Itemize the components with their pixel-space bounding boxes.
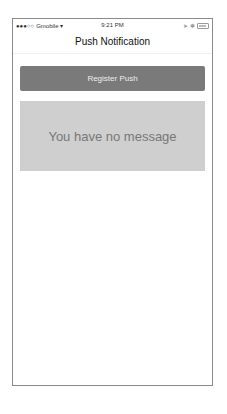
battery-icon	[197, 23, 209, 29]
status-bar: ●●●○○ Gmobile ▾ 9:21 PM ➤ ✱	[13, 19, 212, 31]
message-text: You have no message	[48, 129, 176, 144]
nav-divider	[13, 53, 212, 54]
location-icon: ➤	[183, 22, 188, 29]
status-right: ➤ ✱	[183, 22, 209, 29]
register-push-button[interactable]: Register Push	[20, 66, 205, 91]
phone-screen: ●●●○○ Gmobile ▾ 9:21 PM ➤ ✱ Push Notific…	[12, 18, 213, 386]
page-title: Push Notification	[13, 36, 212, 47]
message-box: You have no message	[20, 101, 205, 171]
bluetooth-icon: ✱	[190, 22, 195, 29]
